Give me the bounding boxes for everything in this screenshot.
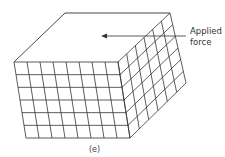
side-grid-horizontal xyxy=(128,71,183,125)
applied-force-line2: force xyxy=(190,37,222,48)
applied-force-label: Applied force xyxy=(190,26,222,48)
figure-caption: (e) xyxy=(89,144,100,155)
side-grid-horizontal xyxy=(126,60,181,113)
side-grid-horizontal xyxy=(120,25,173,75)
side-grid-horizontal xyxy=(122,36,175,87)
side-grid-horizontal xyxy=(124,48,178,100)
side-grid-horizontal xyxy=(118,13,170,62)
arrowhead-icon xyxy=(101,34,107,39)
applied-force-line1: Applied xyxy=(190,26,222,37)
sheared-block-diagram xyxy=(0,0,225,157)
side-grid-horizontal xyxy=(130,83,186,138)
top-face-left-edge xyxy=(14,13,65,62)
